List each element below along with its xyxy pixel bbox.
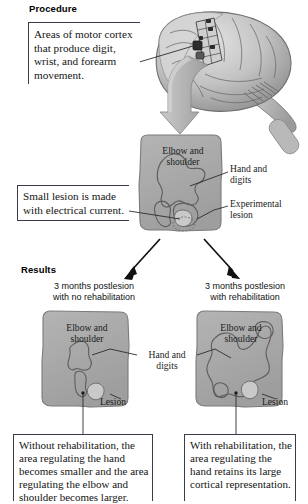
callout-motor-cortex-text: Areas of motor cortex that produce digit… [34,28,138,82]
map-label-elbow-shoulder-baseline: Elbow and shoulder [148,145,218,167]
arrow-split-right [204,239,240,279]
callout-with-rehabilitation-text: With rehabilitation, the area regulating… [190,439,293,491]
section-heading-procedure: Procedure [29,3,77,14]
condition-label-no-rehabilitation: 3 months postlesion with no rehabilitati… [32,281,156,303]
map-label-hand-digits-baseline: Hand and digits [230,163,290,185]
callout-small-lesion-text: Small lesion is made with electrical cur… [23,190,127,217]
stem-dot-left [81,391,84,394]
lesion-blob-right [241,381,258,399]
callout-no-rehabilitation: Without rehabilitation, the area regulat… [13,434,153,501]
map-label-lesion-right: Lesion [262,396,306,407]
condition-label-with-rehabilitation: 3 months postlesion with rehabilitation [186,281,304,303]
stem-dot-right [234,391,237,394]
callout-with-rehabilitation: With rehabilitation, the area regulating… [184,434,296,501]
map-label-elbow-shoulder-left: Elbow and shoulder [51,322,123,344]
map-label-lesion-left: Lesion [100,396,144,407]
section-heading-results: Results [21,264,56,275]
map-label-experimental-lesion: Experimental lesion [230,198,296,220]
callout-small-lesion: Small lesion is made with electrical cur… [17,185,129,221]
map-label-elbow-shoulder-right: Elbow and shoulder [205,322,277,344]
arrow-split-left [124,239,160,280]
callout-motor-cortex: Areas of motor cortex that produce digit… [28,22,140,84]
map-label-hand-digits-results: Hand and digits [139,349,195,371]
callout-no-rehabilitation-text: Without rehabilitation, the area regulat… [19,439,150,504]
